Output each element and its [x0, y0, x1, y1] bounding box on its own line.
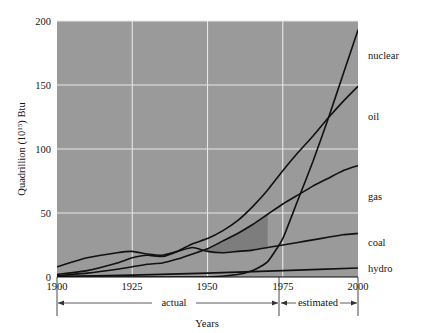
- y-axis-title: Quadrillion (1015) Btu: [16, 102, 29, 196]
- series-label-gas: gas: [368, 191, 382, 202]
- y-tick-label-50: 50: [41, 208, 52, 219]
- energy-consumption-line-chart: 200 150 100 50 0 Quadrillion (1015) Btu …: [0, 0, 421, 333]
- series-label-hydro: hydro: [368, 263, 393, 274]
- actual-arrow-right-icon: [272, 301, 278, 306]
- y-tick-label-100: 100: [35, 144, 51, 155]
- actual-arrow-left-icon: [58, 301, 64, 306]
- series-label-nuclear: nuclear: [368, 50, 399, 61]
- y-tick-label-200: 200: [35, 16, 51, 27]
- x-axis-title: Years: [195, 318, 218, 329]
- estimated-arrow-left-icon: [281, 301, 287, 306]
- actual-label: actual: [161, 297, 186, 308]
- svg-text:Quadrillion (1015) Btu: Quadrillion (1015) Btu: [16, 102, 29, 196]
- chart-figure: 200 150 100 50 0 Quadrillion (1015) Btu …: [0, 0, 421, 333]
- estimated-arrow-right-icon: [351, 301, 357, 306]
- series-label-oil: oil: [368, 111, 379, 122]
- y-axis-title-part2: ) Btu: [16, 102, 28, 124]
- estimated-label: estimated: [298, 297, 339, 308]
- y-axis-title-part1: Quadrillion (10: [16, 131, 28, 196]
- x-tick-label-1925: 1925: [122, 281, 143, 292]
- series-label-coal: coal: [368, 237, 386, 248]
- x-tick-label-1975: 1975: [273, 281, 294, 292]
- y-tick-label-150: 150: [35, 80, 51, 91]
- x-tick-label-1950: 1950: [197, 281, 218, 292]
